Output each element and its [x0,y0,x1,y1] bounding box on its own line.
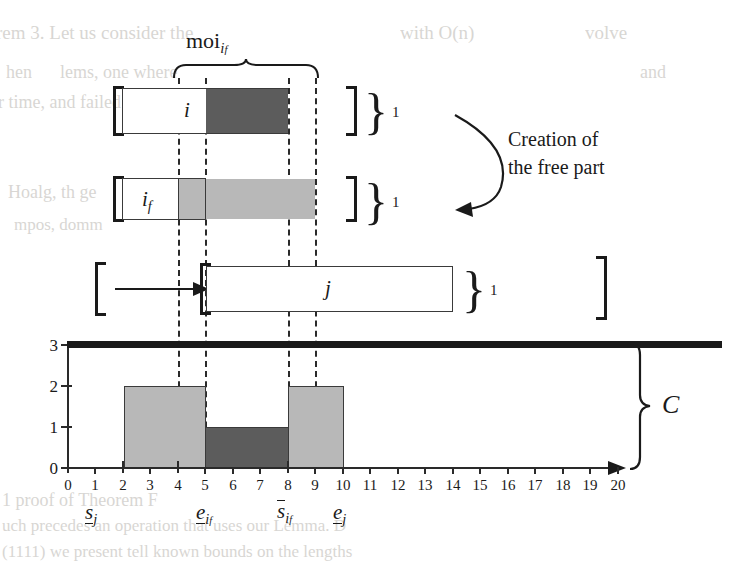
capacity-label: C [662,392,679,418]
ghost-text-line6: 1 proof of Theorem F [2,490,158,511]
x-axis-tick-8 [287,461,289,473]
x-tick-label-20: 20 [606,478,630,493]
x-axis-tick-0 [67,461,69,473]
x-axis-tick-12 [397,467,399,474]
x-axis-tick-15 [479,467,481,474]
x-tick-label-0: 0 [56,478,80,493]
x-tick-label-2: 2 [111,478,135,493]
x-tick-label-17: 17 [523,478,547,493]
creation-text-line2: the free part [508,155,605,180]
row3-count: 1 [490,283,498,298]
x-axis-tick-11 [369,467,371,474]
row3-close-bracket [596,256,607,320]
annotation-s-overline-if: sif [277,500,292,525]
x-axis-tick-5 [204,467,206,474]
x-axis-tick-7 [259,467,261,474]
x-axis-tick-6 [232,467,234,474]
row2-curly-brace: } [364,176,388,226]
x-tick-label-1: 1 [83,478,107,493]
annotation-e-underline-if: eif [196,502,212,526]
moi-label: moiif [186,30,227,56]
task-bar-i-occupied-part [206,89,288,133]
x-axis-tick-13 [424,467,426,474]
x-tick-label-16: 16 [496,478,520,493]
ghost-text-line1: rem 3. Let us consider the [0,22,193,44]
ghost-text-line2c: and [640,62,666,83]
row1-close-bracket [346,86,357,136]
row3-open-bracket [95,262,106,316]
y-tick-0: 0 [40,460,58,477]
x-axis-tick-18 [562,467,564,474]
row1-count: 1 [392,105,400,120]
y-axis-tick-1 [61,426,72,428]
x-axis-tick-10 [342,467,344,474]
x-tick-label-19: 19 [578,478,602,493]
x-axis-tick-20 [617,467,619,474]
task-label-if: if [142,189,152,213]
ghost-text-line7: uch precedes an operation that uses our … [2,516,346,536]
y-tick-3: 3 [40,337,58,354]
moi-brace [172,58,322,80]
x-axis-tick-9 [314,467,316,474]
y-tick-2: 2 [40,378,58,395]
row1-curly-brace: } [364,86,388,136]
x-tick-label-6: 6 [221,478,245,493]
x-axis-tick-19 [589,467,591,474]
annotation-s-underline-j: sj [85,502,97,526]
x-tick-label-12: 12 [386,478,410,493]
ghost-text-line2b: lems, one where [60,62,177,83]
x-tick-label-15: 15 [468,478,492,493]
x-axis-tick-1 [94,467,96,474]
x-axis-tick-2 [122,461,124,473]
x-tick-label-9: 9 [303,478,327,493]
annotation-e-underline-j: ej [333,502,346,526]
row3-curly-brace: } [462,264,486,314]
x-axis-tick-4 [177,461,179,473]
x-tick-label-7: 7 [248,478,272,493]
x-axis-tick-17 [534,467,536,474]
y-axis-line [67,345,69,470]
y-axis-tick-2 [61,385,72,387]
x-tick-label-5: 5 [193,478,217,493]
figure-canvas: rem 3. Let us consider the with O(n) vol… [0,0,729,569]
chart-step-bar-3 [288,386,344,468]
x-axis-tick-14 [452,467,454,474]
x-tick-label-11: 11 [358,478,382,493]
ghost-text-line1b: with O(n) [400,22,474,44]
x-tick-label-8: 8 [276,478,300,493]
capacity-brace [626,341,652,471]
ghost-text-line1c: volve [585,22,627,44]
chart-step-bar-2 [205,427,289,468]
x-tick-label-10: 10 [331,478,355,493]
x-tick-label-13: 13 [413,478,437,493]
x-tick-label-14: 14 [441,478,465,493]
shift-arrow-icon [115,276,211,302]
capacity-line [67,341,722,348]
x-axis-tick-16 [507,467,509,474]
x-tick-label-18: 18 [551,478,575,493]
ghost-text-line8: (1111) we present tell known bounds on t… [2,542,352,562]
y-tick-1: 1 [40,419,58,436]
row2-count: 1 [392,195,400,210]
x-tick-label-4: 4 [166,478,190,493]
x-axis-tick-3 [149,467,151,474]
creation-text-line1: Creation of [508,127,599,152]
ghost-text-line5: mpos, domm [14,215,103,235]
task-label-j: j [325,278,331,299]
ghost-text-line4: Hoalg, th ge [8,182,96,203]
chart-step-bar-1 [124,386,206,468]
x-tick-label-3: 3 [138,478,162,493]
row2-close-bracket [346,176,357,222]
ghost-text-line2a: hen [6,62,32,83]
task-label-i: i [184,100,190,121]
